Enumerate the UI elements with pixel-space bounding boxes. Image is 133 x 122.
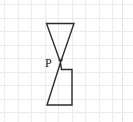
figure-svg: P	[0, 0, 133, 122]
figure-canvas: P	[0, 0, 133, 122]
point-label-p: P	[45, 56, 52, 70]
